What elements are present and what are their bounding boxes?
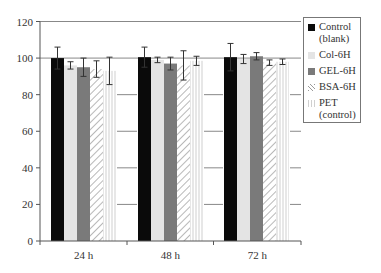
bar — [90, 69, 103, 241]
legend-swatch-icon — [308, 84, 315, 91]
legend-label: PET (control) — [319, 97, 356, 121]
bar — [276, 62, 289, 241]
bar — [51, 58, 64, 241]
legend-label: Col-6H — [319, 49, 351, 61]
bars — [51, 56, 289, 241]
bar — [138, 57, 151, 241]
bar — [250, 56, 263, 241]
legend-label: GEL-6H — [319, 65, 356, 77]
legend-swatch-icon — [308, 68, 315, 75]
legend-item: Control (blank) — [308, 21, 358, 45]
bar — [164, 64, 177, 241]
x-category-label: 72 h — [248, 249, 268, 261]
legend-label: Control (blank) — [319, 21, 351, 45]
y-tick-label: 60 — [22, 125, 34, 137]
y-tick-label: 0 — [28, 235, 34, 247]
legend-item: BSA-6H — [308, 81, 358, 93]
bar — [263, 63, 276, 241]
bar — [190, 61, 203, 241]
y-axis-tick-labels: 020406080100120 — [17, 16, 34, 248]
bar — [224, 57, 237, 241]
y-tick-label: 20 — [22, 198, 34, 210]
bar — [151, 60, 164, 241]
y-tick-label: 40 — [22, 162, 34, 174]
x-axis-category-labels: 24 h48 h72 h — [74, 249, 268, 261]
legend-swatch-icon — [308, 100, 315, 107]
bar — [103, 71, 116, 241]
y-tick-label: 80 — [22, 89, 34, 101]
y-tick-label: 100 — [17, 52, 34, 64]
bar — [77, 67, 90, 241]
legend-label: BSA-6H — [319, 81, 356, 93]
legend-swatch-icon — [308, 24, 315, 31]
legend: Control (blank)Col-6HGEL-6HBSA-6HPET (co… — [303, 17, 361, 123]
x-category-label: 24 h — [74, 249, 94, 261]
bar — [177, 65, 190, 241]
legend-swatch-icon — [308, 52, 315, 59]
y-tick-label: 120 — [17, 16, 34, 28]
legend-item: Col-6H — [308, 49, 358, 61]
bar — [237, 59, 250, 241]
legend-item: PET (control) — [308, 97, 358, 121]
x-category-label: 48 h — [161, 249, 181, 261]
legend-item: GEL-6H — [308, 65, 358, 77]
bar — [64, 65, 77, 241]
